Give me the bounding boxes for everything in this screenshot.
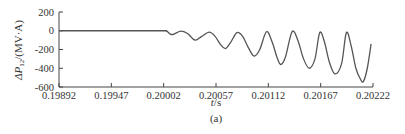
x-tick-label: 0.20112: [251, 90, 285, 101]
y-axis: 2000-200-400-600: [35, 7, 63, 93]
plot-area: [59, 31, 371, 82]
series-line: [59, 31, 371, 82]
x-tick-label: 0.19892: [42, 90, 76, 101]
y-tick-label: 200: [38, 7, 54, 18]
figure-caption: (a): [210, 112, 223, 125]
y-axis-title: ΔP12/(MV·A): [12, 20, 26, 81]
x-tick-label: 0.20222: [356, 90, 390, 101]
x-axis-title: t/s: [211, 96, 221, 108]
x-tick-label: 0.19947: [94, 90, 128, 101]
line-chart: 2000-200-400-600 0.198920.199470.200020.…: [0, 0, 405, 134]
y-tick-label: -400: [35, 63, 54, 74]
x-tick-label: 0.20167: [304, 90, 338, 101]
y-tick-label: -200: [35, 44, 54, 55]
y-tick-label: 0: [49, 25, 54, 36]
x-tick-label: 0.20002: [147, 90, 181, 101]
